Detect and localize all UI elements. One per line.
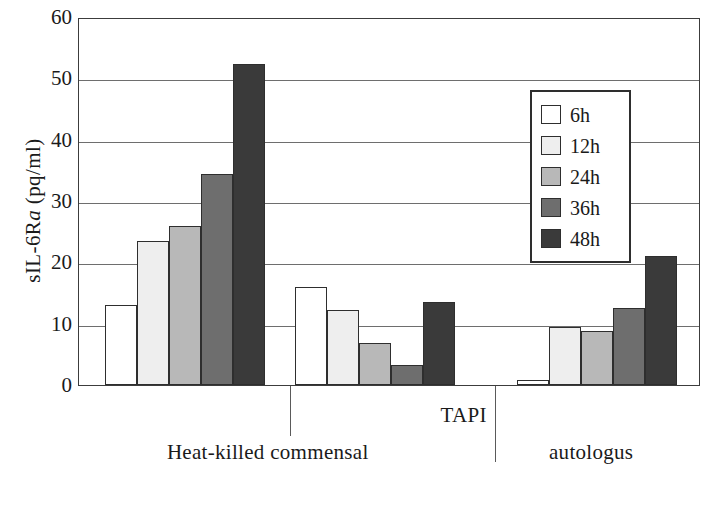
bar xyxy=(645,256,677,385)
chart-figure: sIL-6Ra (pq/ml) 0102030405060 Heat-kille… xyxy=(0,0,707,505)
bar xyxy=(105,305,137,385)
bar xyxy=(233,64,265,385)
y-axis-ticks: 0102030405060 xyxy=(22,0,72,505)
legend-swatch xyxy=(541,229,561,248)
y-tick-label: 50 xyxy=(26,68,72,89)
legend-swatch xyxy=(541,136,561,155)
legend: 6h12h24h36h48h xyxy=(530,90,631,263)
legend-swatch xyxy=(541,198,561,217)
legend-label: 6h xyxy=(570,105,590,125)
bar xyxy=(517,380,549,385)
gridline xyxy=(79,80,699,81)
y-tick-label: 40 xyxy=(26,130,72,151)
bar xyxy=(201,174,233,385)
legend-swatch xyxy=(541,105,561,124)
legend-label: 48h xyxy=(570,229,600,249)
bar xyxy=(137,241,169,385)
bar xyxy=(423,302,455,385)
legend-swatch xyxy=(541,167,561,186)
y-tick-label: 0 xyxy=(26,375,72,396)
bar xyxy=(327,310,359,385)
bar xyxy=(169,226,201,385)
legend-item: 6h xyxy=(541,99,629,130)
legend-label: 12h xyxy=(570,136,600,156)
y-tick-label: 20 xyxy=(26,252,72,273)
bar xyxy=(581,331,613,385)
legend-item: 12h xyxy=(541,130,629,161)
bar xyxy=(613,308,645,385)
legend-item: 48h xyxy=(541,223,629,254)
bar xyxy=(295,287,327,385)
legend-item: 36h xyxy=(541,192,629,223)
category-label: autologus xyxy=(238,440,707,465)
legend-label: 24h xyxy=(570,167,600,187)
y-tick-label: 60 xyxy=(26,7,72,28)
legend-item: 24h xyxy=(541,161,629,192)
legend-label: 36h xyxy=(570,198,600,218)
bar xyxy=(549,327,581,385)
y-tick-label: 10 xyxy=(26,314,72,335)
category-label: TAPI xyxy=(110,403,707,428)
y-tick-label: 30 xyxy=(26,191,72,212)
bar xyxy=(391,365,423,385)
bar xyxy=(359,343,391,385)
